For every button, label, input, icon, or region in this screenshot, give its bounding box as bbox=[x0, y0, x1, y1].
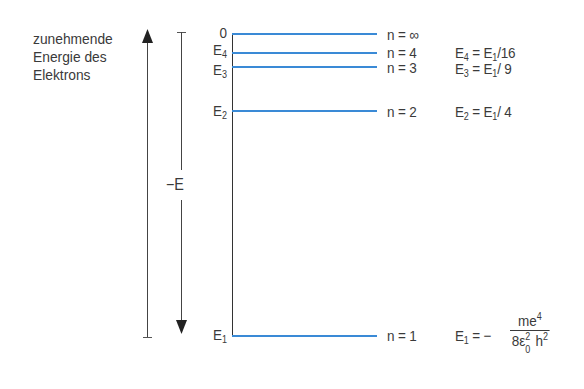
formula-e4: E4 = E1/16 bbox=[455, 45, 515, 61]
level-line-n-1 bbox=[232, 335, 377, 337]
formula-e3: E3 = E1/ 9 bbox=[455, 61, 512, 77]
caption-line-1: zunehmende bbox=[33, 30, 113, 48]
level-line-n-inf bbox=[232, 33, 377, 35]
neg-energy-label: −E bbox=[166, 177, 184, 193]
level-line-n-4 bbox=[232, 52, 377, 54]
increasing-energy-shaft bbox=[147, 40, 148, 337]
energy-caption: zunehmende Energie des Elektrons bbox=[33, 30, 113, 84]
level-label-e2: E2 bbox=[207, 103, 227, 119]
n-label-1: n = 1 bbox=[387, 328, 417, 344]
level-label-e4: E4 bbox=[207, 42, 227, 58]
n-label-inf: n = ∞ bbox=[387, 27, 419, 43]
formula-e1-lhs: E1 = − bbox=[455, 328, 491, 344]
bottom-cap bbox=[143, 337, 152, 338]
neg-energy-shaft-upper bbox=[181, 32, 182, 170]
level-line-n-2 bbox=[232, 110, 377, 112]
n-label-3: n = 3 bbox=[387, 60, 417, 76]
arrow-down-icon bbox=[176, 320, 187, 334]
caption-line-3: Elektrons bbox=[33, 66, 113, 84]
caption-line-2: Energie des bbox=[33, 48, 113, 66]
level-line-n-3 bbox=[232, 66, 377, 68]
n-label-2: n = 2 bbox=[387, 104, 417, 120]
level-label-e3: E3 bbox=[207, 62, 227, 78]
arrow-up-icon bbox=[142, 29, 153, 43]
fraction-denominator: 8ε20 h2 bbox=[510, 331, 550, 351]
level-label-e1: E1 bbox=[207, 327, 227, 343]
neg-energy-shaft-lower bbox=[181, 200, 182, 322]
level-label-zero: 0 bbox=[207, 25, 227, 41]
formula-e2: E2 = E1/ 4 bbox=[455, 104, 512, 120]
formula-e1-fraction: me4 8ε20 h2 bbox=[510, 312, 550, 351]
energy-axis bbox=[232, 33, 233, 337]
